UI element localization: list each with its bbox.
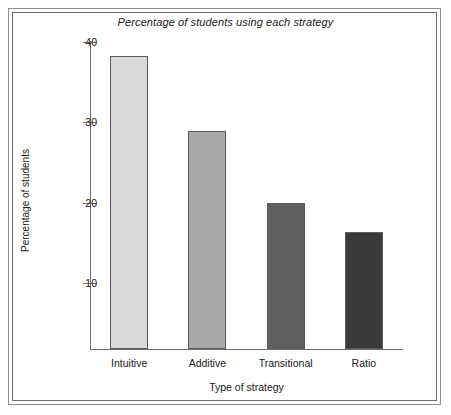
x-axis-line — [90, 349, 403, 350]
chart-figure: Percentage of students using each strate… — [0, 0, 451, 415]
y-tick-row: 30 — [0, 122, 97, 123]
y-tick-row: 40 — [0, 42, 97, 43]
bar-ratio — [345, 232, 383, 349]
bar-transitional — [267, 203, 305, 349]
x-tick-label: Additive — [168, 357, 246, 369]
x-tick-label: Transitional — [247, 357, 325, 369]
y-tick-row: 20 — [0, 203, 97, 204]
y-axis-title: Percentage of students — [20, 116, 31, 286]
y-tick-label: 30 — [71, 116, 97, 128]
y-tick-row: 10 — [0, 283, 97, 284]
bar-additive — [188, 131, 226, 349]
chart-title: Percentage of students using each strate… — [0, 16, 451, 28]
y-tick-label: 20 — [71, 197, 97, 209]
y-axis-line — [90, 41, 91, 350]
x-axis-title: Type of strategy — [90, 381, 403, 393]
x-tick-label: Intuitive — [90, 357, 168, 369]
bar-intuitive — [110, 56, 148, 349]
y-tick-label: 10 — [71, 277, 97, 289]
x-tick-label: Ratio — [325, 357, 403, 369]
y-tick-label: 40 — [71, 36, 97, 48]
plot-area: Percentage of students using each strate… — [0, 0, 451, 415]
